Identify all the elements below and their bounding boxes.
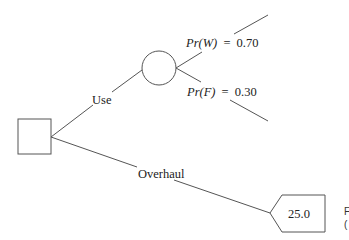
outcome-f-label: Pr(F) = 0.30 [186,85,257,99]
outcome-w-label: Pr(W) = 0.70 [185,36,258,50]
outcome-w-line-outer [234,15,268,34]
decision-node-square [18,119,51,154]
outcome-f-line-inner [176,68,201,82]
overhaul-branch-label: Overhaul [138,167,185,181]
overhaul-branch-line-left [51,137,137,167]
use-branch-line-upper [112,70,142,92]
overhaul-branch-line-right [174,180,270,213]
chance-node-circle [142,51,176,85]
cropped-side-text-1: F [344,206,349,217]
decision-tree-diagram: Use Pr(W) = 0.70 Pr(F) = 0.30 Overhaul 2… [0,0,349,240]
outcome-f-line-outer [230,100,268,121]
outcome-w-line-inner [176,52,202,68]
terminal-value: 25.0 [288,207,310,221]
use-branch-label: Use [92,93,112,107]
use-branch-line-lower [51,105,93,137]
cropped-side-text-2: ( [344,219,348,230]
